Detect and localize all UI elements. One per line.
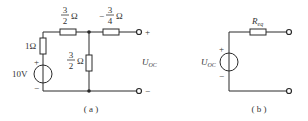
r-top-left-unit: Ω: [71, 11, 78, 21]
resistor-top-left: [60, 29, 76, 35]
caption-b: ( b ): [252, 104, 267, 114]
r-top-right-unit: Ω: [116, 11, 123, 21]
r-shunt-unit: Ω: [77, 56, 84, 66]
r-shunt-num: 3: [69, 50, 74, 60]
r-top-right-den: 4: [108, 16, 113, 26]
terminal-minus-icon: [137, 89, 142, 94]
circuit-figure: 3 2 Ω − 3 4 Ω 1Ω 3 2 Ω + 10V − + − UOC (…: [0, 0, 308, 121]
r-shunt-den: 2: [69, 61, 74, 71]
r-top-left-num: 3: [63, 5, 68, 15]
circuit-b: Req + UOC − ( b ): [201, 16, 292, 114]
terminal-bottom-icon: [287, 89, 292, 94]
r-top-right-num: 3: [108, 5, 113, 15]
node-top: [87, 30, 91, 34]
resistor-shunt: [86, 55, 92, 71]
terminal-plus-label: +: [145, 27, 150, 37]
terminal-top-icon: [287, 30, 292, 35]
req-label: Req: [251, 16, 263, 27]
source-plus: +: [219, 44, 224, 54]
source-minus: −: [34, 83, 39, 93]
caption-a: ( a ): [84, 104, 99, 114]
source-uoc-label: UOC: [201, 57, 217, 68]
source-plus: +: [34, 57, 39, 67]
terminal-minus-label: −: [145, 86, 150, 96]
r-series-label: 1Ω: [25, 41, 37, 51]
node-bottom: [87, 89, 91, 93]
resistor-top-right: [103, 29, 119, 35]
source-minus: −: [219, 71, 224, 81]
source-value: 10V: [12, 69, 28, 79]
resistor-series-1ohm: [40, 38, 46, 54]
terminal-plus-icon: [137, 30, 142, 35]
uoc-label: UOC: [142, 57, 158, 68]
circuit-a: 3 2 Ω − 3 4 Ω 1Ω 3 2 Ω + 10V − + − UOC (…: [12, 5, 158, 114]
r-top-left-den: 2: [63, 16, 68, 26]
resistor-req: [250, 29, 266, 35]
r-top-right-sign: −: [99, 11, 104, 21]
